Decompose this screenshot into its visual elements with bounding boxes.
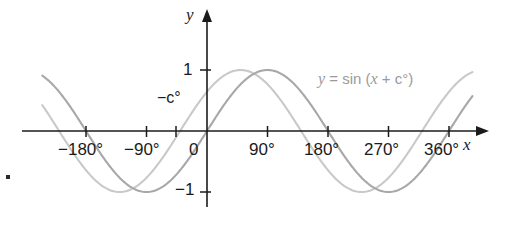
equation-operator: = sin ( [325, 70, 370, 87]
x-tick-label-180: 180° [304, 141, 339, 158]
phase-shift-label: −c° [157, 90, 181, 106]
equation-x-symbol: x [371, 70, 378, 87]
x-tick-label-270: 270° [364, 141, 399, 158]
y-axis-label: y [186, 6, 194, 23]
y-tick-label-minus-1: −1 [175, 181, 194, 198]
x-tick-label-zero: 0 [189, 141, 198, 158]
y-tick-label-1: 1 [183, 61, 192, 78]
y-axis [202, 9, 212, 207]
curve-equation-label: y = sin (x + c°) [318, 71, 413, 87]
equation-tail: + c°) [378, 70, 414, 87]
x-tick-label-90: 90° [249, 141, 275, 158]
x-tick-label-minus-180: −180° [58, 141, 103, 158]
sine-graph-figure: y x 1 −1 −c° −180° −90° 0 90° 180° 270° … [0, 0, 510, 248]
x-tick-label-360: 360° [424, 141, 459, 158]
plot-canvas [0, 0, 510, 248]
x-tick-label-minus-90: −90° [124, 141, 160, 158]
x-axis-label: x [463, 136, 471, 153]
scan-artifact-dot [6, 175, 10, 179]
